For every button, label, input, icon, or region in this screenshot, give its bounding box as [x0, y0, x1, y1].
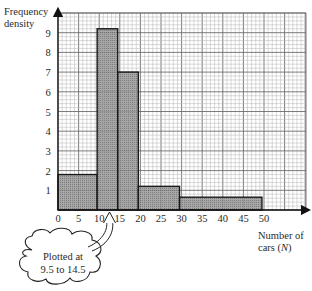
- callout-line1: Plotted at: [30, 250, 96, 263]
- svg-text:25: 25: [156, 213, 167, 224]
- svg-text:1: 1: [45, 185, 50, 196]
- x-axis-title-prefix: cars (: [258, 242, 281, 253]
- svg-text:40: 40: [218, 213, 229, 224]
- svg-text:6: 6: [45, 87, 50, 98]
- histogram-bar: [180, 197, 262, 210]
- x-axis-title-suffix: ): [288, 242, 292, 253]
- histogram-bar: [97, 29, 118, 210]
- svg-text:45: 45: [238, 213, 249, 224]
- x-axis-variable: N: [281, 242, 288, 253]
- x-axis-title-line1: Number of: [258, 230, 304, 242]
- y-axis-title-line1: Frequency: [4, 6, 48, 18]
- svg-text:3: 3: [45, 146, 50, 157]
- y-axis-title: Frequency density: [4, 6, 48, 30]
- svg-text:5: 5: [45, 107, 50, 118]
- svg-text:4: 4: [45, 126, 51, 137]
- svg-text:8: 8: [45, 47, 50, 58]
- svg-text:7: 7: [45, 67, 50, 78]
- histogram-bar: [138, 186, 179, 210]
- histogram-bar: [118, 72, 139, 210]
- x-axis-title: Number of cars (N): [258, 230, 304, 254]
- svg-text:30: 30: [176, 213, 187, 224]
- svg-text:10: 10: [94, 213, 105, 224]
- svg-text:50: 50: [259, 213, 270, 224]
- y-axis-title-line2: density: [4, 18, 48, 30]
- svg-text:0: 0: [55, 213, 60, 224]
- svg-text:15: 15: [115, 213, 126, 224]
- x-axis-title-line2: cars (N): [258, 242, 304, 254]
- histogram-bar: [58, 175, 97, 210]
- svg-text:35: 35: [197, 213, 208, 224]
- callout-line2: 9.5 to 14.5: [30, 263, 96, 276]
- svg-text:5: 5: [76, 213, 81, 224]
- svg-text:2: 2: [45, 166, 50, 177]
- svg-text:20: 20: [135, 213, 146, 224]
- callout-text: Plotted at 9.5 to 14.5: [30, 250, 96, 276]
